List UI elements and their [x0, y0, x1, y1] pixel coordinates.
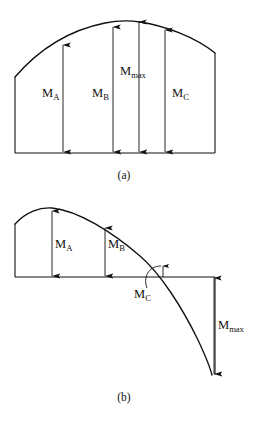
panel-b-label-mmax: Mmax	[218, 318, 245, 334]
panel-a-moment-curve	[15, 21, 215, 77]
panel-a-caption: (a)	[118, 169, 131, 182]
panel-b-moment-curve	[15, 208, 212, 375]
panel-b-caption: (b)	[117, 391, 131, 404]
panel-b: MA MB MC Mmax (b)	[15, 208, 245, 404]
panel-b-label-ma: MA	[55, 237, 73, 253]
panel-a-label-mb: MB	[92, 86, 109, 102]
figure-canvas: MA MB Mmax MC (a)	[0, 0, 258, 422]
bending-moment-figure: MA MB Mmax MC (a)	[0, 0, 258, 422]
panel-a-label-mmax: Mmax	[120, 64, 147, 80]
panel-a: MA MB Mmax MC (a)	[15, 21, 215, 182]
panel-a-label-mc: MC	[172, 86, 189, 102]
panel-a-label-ma: MA	[42, 86, 60, 102]
panel-b-label-mb: MB	[108, 237, 125, 253]
panel-b-label-mc: MC	[134, 287, 151, 303]
